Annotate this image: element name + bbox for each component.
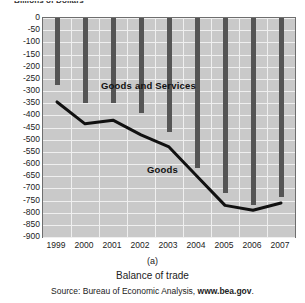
source-website: www.bea.gov: [198, 286, 252, 296]
source-prefix: Source: Bureau of Economic Analysis,: [51, 286, 197, 296]
x-axis-tick-label: 2000: [75, 240, 94, 250]
y-axis-tick-label: -200: [0, 62, 40, 70]
gridline-horizontal: [43, 237, 295, 238]
x-axis-tick-label: 2003: [159, 240, 178, 250]
panel-letter: (a): [0, 256, 305, 266]
x-axis-tick-label: 2006: [243, 240, 262, 250]
series-label-goods: Goods: [147, 164, 178, 175]
y-axis-tick-label: -250: [0, 74, 40, 82]
x-axis-tick-label: 2002: [131, 240, 150, 250]
figure-caption-title: Balance of trade: [0, 270, 305, 281]
y-axis-tick-label: -50: [0, 25, 40, 33]
y-axis-tick-label: -450: [0, 123, 40, 131]
y-axis-tick-label: -900: [0, 232, 40, 240]
x-axis-tick-label: 2007: [271, 240, 290, 250]
y-axis-tick-label: -600: [0, 159, 40, 167]
balance-of-trade-figure: Billions of Dollars 0-50-100-150-200-250…: [0, 0, 305, 303]
y-axis-tick-label: -100: [0, 37, 40, 45]
x-axis-tick-labels: 199920002001200220032004200520062007: [42, 240, 294, 254]
x-axis-tick-label: 2004: [187, 240, 206, 250]
y-axis-tick-label: -300: [0, 86, 40, 94]
source-suffix: .: [252, 286, 254, 296]
plot-area: Goods and Services Goods: [42, 17, 296, 238]
x-axis-tick-label: 2001: [103, 240, 122, 250]
y-axis-tick-label: -650: [0, 171, 40, 179]
y-axis-tick-label: -150: [0, 50, 40, 58]
x-axis-tick-label: 1999: [47, 240, 66, 250]
y-axis-tick-label: -350: [0, 98, 40, 106]
y-axis-tick-label: -700: [0, 183, 40, 191]
figure-source-note: Source: Bureau of Economic Analysis, www…: [0, 286, 305, 296]
x-axis-tick-label: 2005: [215, 240, 234, 250]
y-axis-tick-label: -750: [0, 196, 40, 204]
y-axis-tick-label: -850: [0, 220, 40, 228]
y-axis-tick-label: -500: [0, 135, 40, 143]
y-axis-tick-label: 0: [0, 13, 40, 21]
y-axis-tick-label: -400: [0, 110, 40, 118]
series-label-goods-and-services: Goods and Services: [101, 80, 196, 91]
y-axis-tick-label: -550: [0, 147, 40, 155]
y-axis-tick-label: -800: [0, 208, 40, 216]
line-series-goods: [43, 18, 295, 237]
